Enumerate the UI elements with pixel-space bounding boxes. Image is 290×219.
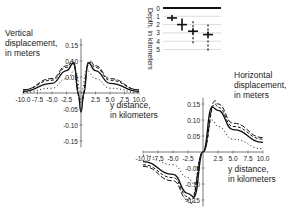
depth-axis-label: Depth, in kilometers xyxy=(146,8,154,70)
y-tick-label: 0.05 xyxy=(187,133,200,140)
x-tick-label: -2.5 xyxy=(61,96,73,103)
x-tick-label: -2.5 xyxy=(182,155,194,162)
vertical-ylabel-line2: displacement, xyxy=(5,38,57,48)
x-tick-label: 2.5 xyxy=(213,155,222,162)
horizontal-xlabel-line2: in kilometers xyxy=(228,174,276,184)
depth-tick-label: 1 xyxy=(156,13,160,20)
vertical-ylabel-line1: Vertical xyxy=(5,28,57,38)
x-tick-label: -10.0 xyxy=(136,155,151,162)
x-tick-label: 5.0 xyxy=(228,155,237,162)
horizontal-ylabel: Horizontal displacement, in meters xyxy=(234,70,286,100)
y-tick-label: -0.05 xyxy=(63,106,78,113)
vertical-ylabel-line3: in meters xyxy=(5,48,57,58)
depth-tick-label: 2 xyxy=(156,21,160,28)
y-tick-label: 0.10 xyxy=(187,117,200,124)
x-tick-label: 7.5 xyxy=(243,155,252,162)
depth-tick-label: 3 xyxy=(156,29,160,36)
horizontal-xlabel: y distance, in kilometers xyxy=(228,164,276,184)
y-tick-label: -0.15 xyxy=(63,138,78,145)
x-tick-label: -7.5 xyxy=(152,155,164,162)
vertical-xlabel: y distance, in kilometers xyxy=(110,100,158,120)
x-tick-label: -5.0 xyxy=(167,155,179,162)
x-tick-label: -10.0 xyxy=(16,96,31,103)
x-tick-label: 10.0 xyxy=(257,155,270,162)
y-tick-label: -0.10 xyxy=(63,122,78,129)
horizontal-ylabel-line2: displacement, xyxy=(234,80,286,90)
horizontal-xlabel-line1: y distance, xyxy=(228,164,276,174)
x-tick-label: 2.5 xyxy=(91,96,100,103)
vertical-xlabel-line1: y distance, xyxy=(110,100,158,110)
depth-tick-label: 5 xyxy=(156,46,160,53)
x-tick-label: -5.0 xyxy=(46,96,58,103)
x-tick-label: -7.5 xyxy=(32,96,44,103)
horizontal-ylabel-line1: Horizontal xyxy=(234,70,286,80)
vertical-xlabel-line2: in kilometers xyxy=(110,110,158,120)
depth-diagram: 012345Depth, in kilometers xyxy=(146,5,221,71)
y-tick-label: 0.15 xyxy=(65,42,78,49)
y-tick-label: 0.15 xyxy=(187,101,200,108)
depth-tick-label: 4 xyxy=(156,38,160,45)
depth-tick-label: 0 xyxy=(156,5,160,12)
vertical-ylabel: Vertical displacement, in meters xyxy=(5,28,57,58)
horizontal-ylabel-line3: in meters xyxy=(234,90,286,100)
